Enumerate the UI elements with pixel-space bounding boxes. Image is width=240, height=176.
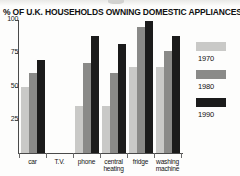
x-label-phone: phone: [72, 158, 101, 165]
chart-title: % OF U.K. HOUSEHOLDS OWNING DOMESTIC APP…: [3, 7, 240, 17]
bar-fridge-1970: [129, 67, 137, 153]
bar-washing-machine-1990: [172, 36, 180, 153]
x-label-fridge: fridge: [127, 158, 154, 165]
legend-swatch-1970: [196, 42, 226, 51]
legend-swatch-1980: [196, 70, 226, 79]
bar-washing-machine-1980: [164, 51, 172, 153]
bar-car-1980: [29, 73, 37, 153]
bar-central-heating-1990: [118, 44, 126, 153]
legend-item-1980: 1980: [196, 70, 238, 98]
plot-area: [19, 20, 182, 153]
x-label-central-heating: central heating: [100, 158, 127, 173]
bar-fridge-1990: [145, 21, 153, 153]
legend-item-1970: 1970: [196, 42, 238, 70]
legend-label-1980: 1980: [198, 82, 214, 91]
chart-figure: % OF U.K. HOUSEHOLDS OWNING DOMESTIC APP…: [0, 0, 240, 176]
bar-central-heating-1970: [102, 106, 110, 153]
legend-label-1970: 1970: [198, 54, 214, 63]
bar-fridge-1980: [137, 27, 145, 153]
bar-car-1970: [21, 87, 29, 154]
chart-legend: 1970 1980 1990: [196, 42, 238, 126]
x-label-car: car: [19, 158, 46, 165]
bar-washing-machine-1970: [156, 67, 164, 153]
bar-phone-1990: [91, 36, 99, 153]
scan-artifact: [0, 0, 240, 6]
x-label-washing-machine: washing machine: [152, 158, 183, 173]
bar-car-1990: [37, 60, 45, 153]
x-label-central-heating-line2: heating: [103, 165, 123, 172]
legend-label-1990: 1990: [198, 110, 214, 119]
x-label-washing-machine-line1: washing: [156, 158, 179, 165]
bar-central-heating-1980: [110, 73, 118, 153]
x-label-tv: T.V.: [46, 158, 73, 165]
legend-item-1990: 1990: [196, 98, 238, 126]
legend-swatch-1990: [196, 98, 226, 107]
bar-phone-1980: [83, 63, 91, 153]
x-label-washing-machine-line2: machine: [156, 165, 180, 172]
x-label-central-heating-line1: central: [104, 158, 122, 165]
bar-phone-1970: [75, 106, 83, 153]
